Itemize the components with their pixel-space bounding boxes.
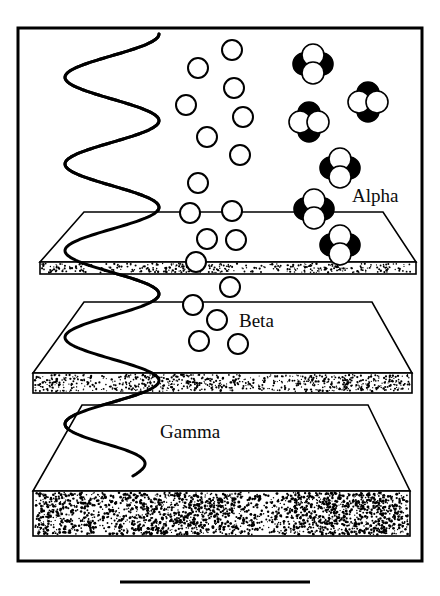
beta-particle: [180, 203, 200, 223]
beta-particle: [188, 173, 208, 193]
beta-label: Beta: [239, 310, 274, 331]
beta-particle: [183, 295, 203, 315]
gamma-label: Gamma: [160, 421, 221, 442]
alpha-neutron-circle: [307, 111, 329, 133]
beta-particle: [220, 277, 240, 297]
beta-particle: [222, 201, 242, 221]
diagram-canvas: Alpha Beta Gamma: [0, 0, 440, 596]
plate-lead: [33, 405, 410, 536]
beta-particle: [189, 331, 209, 351]
beta-particle: [186, 252, 206, 272]
plate-lead-top-face: [33, 405, 410, 491]
beta-particle: [197, 229, 217, 249]
alpha-neutron-circle: [329, 166, 351, 188]
radiation-penetration-figure: Alpha Beta Gamma: [0, 0, 440, 596]
beta-particle: [222, 40, 242, 60]
beta-particle: [230, 145, 250, 165]
beta-particle: [176, 95, 196, 115]
alpha-label: Alpha: [352, 185, 399, 206]
beta-particle: [233, 107, 253, 127]
beta-particle: [207, 310, 227, 330]
alpha-neutron-circle: [302, 62, 324, 84]
alpha-neutron-circle: [329, 243, 351, 265]
beta-particle: [197, 127, 217, 147]
alpha-neutron-circle: [303, 207, 325, 229]
alpha-neutron-circle: [366, 91, 388, 113]
plates-group: [33, 212, 416, 536]
beta-particle: [224, 78, 244, 98]
beta-particle: [228, 334, 248, 354]
beta-particle: [226, 230, 246, 250]
beta-particle: [188, 58, 208, 78]
